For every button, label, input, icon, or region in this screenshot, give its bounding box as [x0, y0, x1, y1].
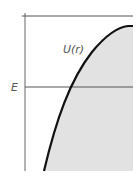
energy-label: E	[11, 81, 18, 94]
curve-label: U(r)	[63, 43, 84, 56]
potential-energy-diagram: U(r) E	[0, 0, 137, 179]
shaded-region	[44, 26, 133, 171]
